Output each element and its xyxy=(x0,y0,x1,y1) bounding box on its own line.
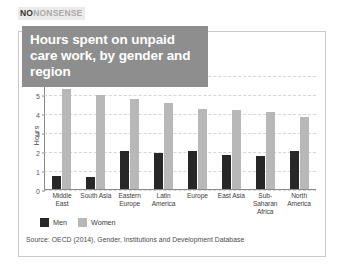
x-axis-label: Eastern Europe xyxy=(113,192,147,216)
bar-group xyxy=(79,76,113,189)
x-axis-label: South Asia xyxy=(79,192,113,216)
bar-women xyxy=(198,109,207,189)
bar-women xyxy=(164,103,173,189)
bar-women xyxy=(266,112,275,189)
bar-men xyxy=(86,177,95,189)
y-tick-label-3: 3 xyxy=(36,131,40,138)
bar-men xyxy=(154,153,163,189)
bar-women xyxy=(96,95,105,189)
bar-group xyxy=(248,76,282,189)
x-axis-label: Europe xyxy=(181,192,215,216)
brand-logo-no: NO xyxy=(20,8,33,18)
source-note: Source: OECD (2014), Gender, Institution… xyxy=(26,236,244,243)
y-tick-label-4: 4 xyxy=(36,111,40,118)
bar-groups xyxy=(45,76,316,189)
bar-group xyxy=(147,76,181,189)
bar-group xyxy=(282,76,316,189)
legend-label-men: Men xyxy=(53,218,67,227)
bar-women xyxy=(300,117,309,189)
legend-swatch-women xyxy=(78,218,87,227)
bar-women xyxy=(62,89,71,189)
x-axis-label: Middle East xyxy=(45,192,79,216)
brand-logo: NONONSENSE xyxy=(18,7,85,20)
bar-men xyxy=(52,176,61,189)
x-axis-label: Sub-Saharan Africa xyxy=(248,192,282,216)
bar-women xyxy=(130,99,139,189)
brand-logo-nonsense: NONSENSE xyxy=(33,8,82,18)
bar-women xyxy=(232,110,241,189)
bar-men xyxy=(188,151,197,189)
bar-men xyxy=(256,156,265,189)
legend-item-men: Men xyxy=(40,218,67,227)
chart-legend: MenWomen xyxy=(40,218,116,227)
axes: 0123456 xyxy=(44,76,316,190)
y-tick-label-5: 5 xyxy=(36,92,40,99)
y-tick-label-2: 2 xyxy=(36,149,40,156)
y-tick-label-1: 1 xyxy=(36,169,40,176)
bar-men xyxy=(290,151,299,189)
x-axis-label: North America xyxy=(282,192,316,216)
legend-label-women: Women xyxy=(91,218,116,227)
bar-men xyxy=(222,155,231,189)
plot-area: Hours 0123456 xyxy=(18,70,326,196)
bar-group xyxy=(45,76,79,189)
bar-group xyxy=(214,76,248,189)
chart-title: Hours spent on unpaid care work, by gend… xyxy=(22,26,208,87)
x-axis-labels: Middle EastSouth AsiaEastern EuropeLatin… xyxy=(18,192,326,216)
x-axis-label: East Asia xyxy=(214,192,248,216)
bar-group xyxy=(181,76,215,189)
legend-swatch-men xyxy=(40,218,49,227)
x-axis-label: Latin America xyxy=(147,192,181,216)
gridline-0: 0 xyxy=(44,190,316,191)
legend-item-women: Women xyxy=(78,218,116,227)
chart-page: NONONSENSE Hours spent on unpaid care wo… xyxy=(0,0,345,271)
bar-men xyxy=(120,151,129,189)
bar-group xyxy=(113,76,147,189)
